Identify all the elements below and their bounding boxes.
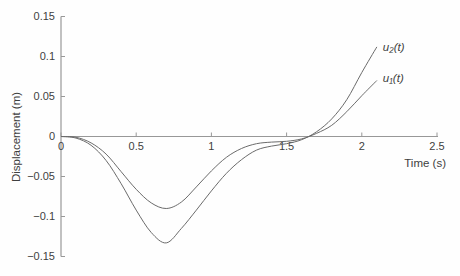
- y-tick-label: 0: [49, 130, 55, 142]
- curve-u1: [61, 81, 377, 209]
- y-axis-title: Displacement (m): [10, 92, 22, 182]
- curve-label-u2: u₂(t): [383, 41, 405, 53]
- chart-svg: 0.150.10.050−0.05−0.1−0.15 00.511.522.5 …: [0, 0, 460, 276]
- x-tick-label: 2.5: [429, 140, 444, 152]
- y-tick-label: −0.05: [27, 170, 55, 182]
- x-tick-label: 0.5: [129, 140, 144, 152]
- x-tick-label: 0: [58, 140, 64, 152]
- figure: 0.150.10.050−0.05−0.1−0.15 00.511.522.5 …: [0, 0, 460, 276]
- y-axis: 0.150.10.050−0.05−0.1−0.15: [27, 10, 65, 262]
- curve-label-u1: u₁(t): [383, 72, 404, 84]
- y-tick-label: 0.15: [34, 10, 55, 22]
- x-axis: 00.511.522.5: [58, 133, 445, 152]
- y-tick-label: −0.1: [33, 210, 55, 222]
- x-axis-title: Time (s): [404, 157, 446, 169]
- y-tick-label: 0.05: [34, 90, 55, 102]
- curves: [61, 47, 377, 243]
- y-tick-label: 0.1: [40, 50, 55, 62]
- curve-labels: u₂(t)u₁(t): [383, 41, 405, 84]
- curve-u2: [61, 47, 377, 243]
- x-tick-label: 1: [208, 140, 214, 152]
- x-tick-label: 2: [359, 140, 365, 152]
- y-tick-label: −0.15: [27, 250, 55, 262]
